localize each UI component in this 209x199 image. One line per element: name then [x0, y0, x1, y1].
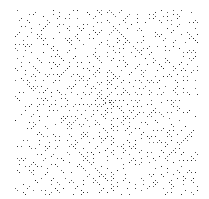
- prime-spiral-dot-field: [0, 0, 209, 199]
